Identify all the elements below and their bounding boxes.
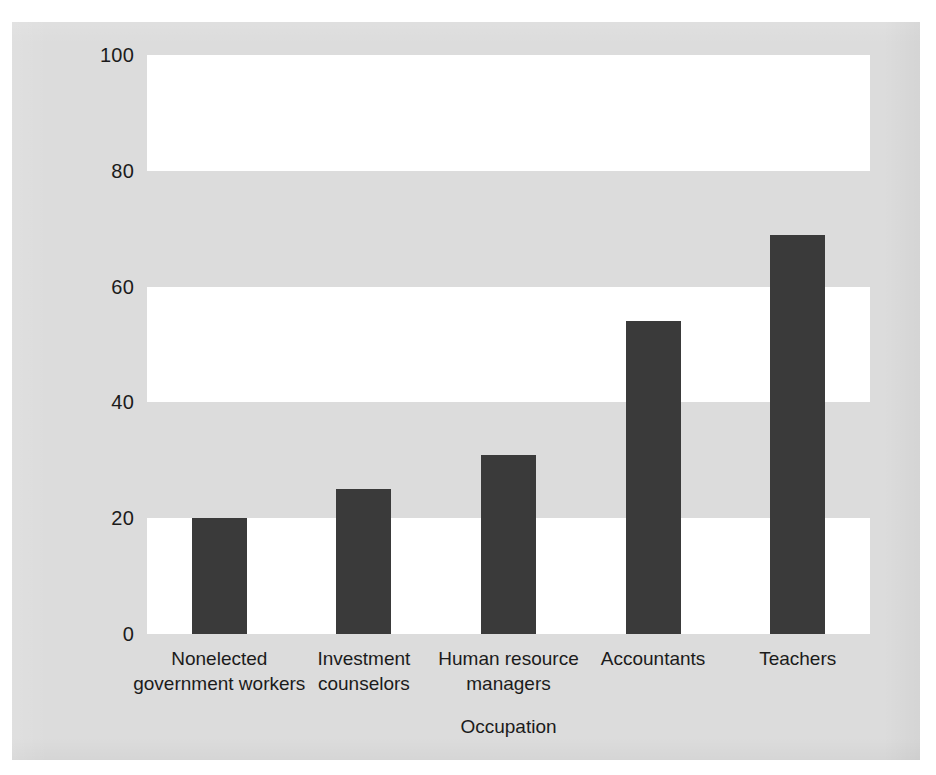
bar bbox=[770, 235, 825, 635]
bar bbox=[336, 489, 391, 634]
x-axis-tick-line: managers bbox=[394, 671, 624, 696]
background-band bbox=[147, 55, 870, 171]
background-band bbox=[147, 287, 870, 403]
bar bbox=[481, 455, 536, 634]
plot-area: 020406080100 Nonelectedgovernment worker… bbox=[147, 55, 870, 634]
y-axis-tick-label: 80 bbox=[111, 159, 134, 182]
y-axis-tick-label: 60 bbox=[111, 275, 134, 298]
x-axis-tick-line: Teachers bbox=[683, 646, 913, 671]
y-axis-tick-label: 0 bbox=[123, 623, 134, 646]
x-axis-title: Occupation bbox=[460, 716, 556, 738]
background-band bbox=[147, 171, 870, 287]
y-axis-tick-label: 20 bbox=[111, 507, 134, 530]
chart-canvas: Percentage Highly Credible 020406080100 … bbox=[12, 22, 920, 760]
figure: Percentage Highly Credible 020406080100 … bbox=[0, 0, 936, 775]
bar bbox=[192, 518, 247, 634]
bar bbox=[626, 321, 681, 634]
x-axis-tick-label: Teachers bbox=[683, 646, 913, 671]
y-axis-tick-label: 40 bbox=[111, 391, 134, 414]
y-axis-tick-label: 100 bbox=[100, 44, 134, 67]
